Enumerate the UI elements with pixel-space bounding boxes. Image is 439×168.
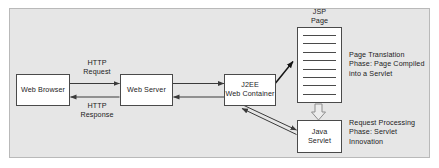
jsp-doc-text-line [303,69,336,70]
node-web-browser-label: Web Browser [21,86,65,95]
annotation-request-processing-phase: Request Processing Phase: Servlet Innova… [349,118,435,146]
annotation-page-translation-line2: Phase: Page Compiled [349,59,435,68]
node-web-server-label: Web Server [127,86,166,95]
annotation-request-processing-line2: Phase: Servlet [349,127,435,136]
annotation-page-translation-line3: into a Servlet [349,69,435,78]
caption-jsp-page-line2: Page [297,16,342,25]
caption-jsp-page: JSP Page [297,7,342,25]
label-http-response-line1: HTTP [72,101,122,110]
node-java-servlet-label-line2: Servlet [308,137,331,146]
node-java-servlet[interactable]: Java Servlet [297,120,342,153]
jsp-doc-text-line [303,85,336,86]
caption-jsp-page-line1: JSP [297,7,342,16]
node-web-browser[interactable]: Web Browser [16,74,70,106]
jsp-doc-text-line [303,52,336,53]
label-http-request: HTTP Request [72,58,122,76]
label-http-request-line1: HTTP [72,58,122,67]
jsp-doc-text-line [303,94,336,95]
node-j2ee-web-container[interactable]: J2EE Web Container [224,74,276,106]
annotation-request-processing-line1: Request Processing [349,118,435,127]
jsp-doc-text-line [303,43,336,44]
annotation-page-translation-line1: Page Translation [349,50,435,59]
jsp-doc-text-line [303,77,336,78]
jsp-doc-text-line [303,35,336,36]
annotation-request-processing-line3: Innovation [349,137,435,146]
annotation-page-translation-phase: Page Translation Phase: Page Compiled in… [349,50,435,78]
node-jsp-page-document[interactable] [297,27,342,103]
jsp-doc-text-line [303,60,336,61]
node-web-server[interactable]: Web Server [120,74,173,106]
label-http-response-line2: Response [72,110,122,119]
label-http-response: HTTP Response [72,101,122,119]
diagram-canvas: Web Browser Web Server J2EE Web Containe… [0,0,439,168]
node-j2ee-label-line2: Web Container [225,90,274,99]
label-http-request-line2: Request [72,67,122,76]
